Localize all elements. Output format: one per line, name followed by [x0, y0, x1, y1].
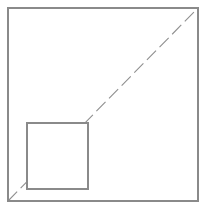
figure-svg: [0, 0, 210, 212]
figure-canvas: [0, 0, 210, 212]
inner-square: [27, 123, 88, 189]
